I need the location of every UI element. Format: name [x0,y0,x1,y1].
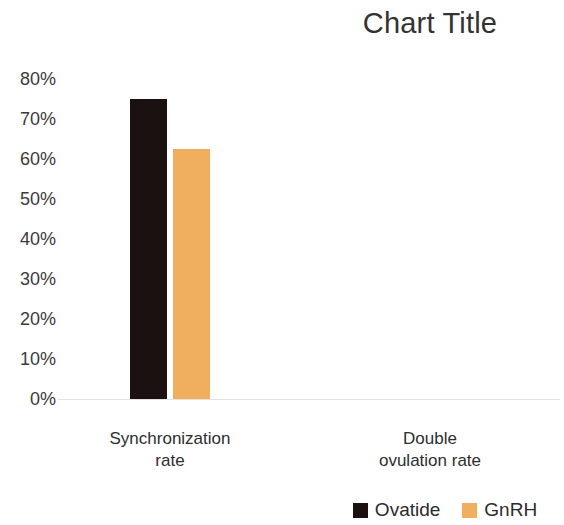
legend-item-gnrh[interactable]: GnRH [462,500,537,520]
category-label-line2: ovulation rate [320,450,540,472]
y-axis: 80%70%60%50%40%30%20%10%0% [0,0,56,525]
legend-label: GnRH [484,500,537,520]
category-label-line2: rate [60,450,280,472]
y-axis-tick-label: 70% [4,110,56,128]
bar-ovatide[interactable] [130,99,167,399]
legend-swatch-icon [353,503,368,518]
legend-swatch-icon [462,503,477,518]
y-axis-tick-label: 10% [4,350,56,368]
y-axis-tick-label: 20% [4,310,56,328]
y-axis-tick-label: 80% [4,70,56,88]
y-axis-tick-label: 50% [4,190,56,208]
chart-legend: OvatideGnRH [330,498,560,522]
legend-label: Ovatide [375,500,440,520]
y-axis-tick-label: 40% [4,230,56,248]
legend-item-ovatide[interactable]: Ovatide [353,500,440,520]
category-label-double-ovulation-rate: Double ovulation rate [320,428,540,472]
chart-title: Chart Title [290,6,564,40]
bar-chart: Chart Title 80%70%60%50%40%30%20%10%0% S… [0,0,564,525]
y-axis-tick-label: 30% [4,270,56,288]
plot-area [60,70,560,400]
y-axis-tick-label: 60% [4,150,56,168]
bar-group [390,79,470,399]
category-label-synchronization-rate: Synchronization rate [60,428,280,472]
y-axis-tick-label: 0% [4,390,56,408]
category-label-line1: Double [320,428,540,450]
category-label-line1: Synchronization [60,428,280,450]
bar-gnrh[interactable] [173,149,210,399]
bar-group [130,79,210,399]
